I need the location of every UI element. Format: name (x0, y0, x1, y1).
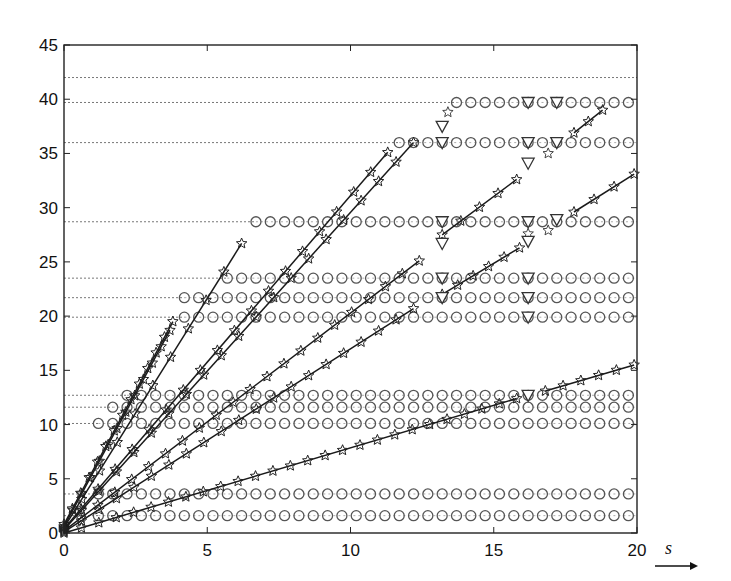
x-axis-label: s (665, 538, 672, 558)
y-tick-label: 45 (39, 36, 58, 55)
arrow-right-icon (655, 562, 698, 570)
y-tick-label: 15 (39, 361, 58, 380)
axis-ticks (64, 45, 637, 533)
y-tick-label: 25 (39, 253, 58, 272)
y-tick-labels: 051015202530354045 (39, 36, 58, 543)
x-tick-label: 10 (341, 541, 360, 560)
y-tick-label: 35 (39, 144, 58, 163)
y-tick-label: 5 (49, 470, 58, 489)
dashed-levels (64, 78, 637, 516)
x-tick-label: 20 (628, 541, 647, 560)
x-tick-label: 5 (203, 541, 212, 560)
y-tick-label: 20 (39, 307, 58, 326)
star-series (59, 105, 640, 538)
triangle-markers (436, 97, 563, 401)
y-tick-label: 0 (49, 524, 58, 543)
circle-markers (93, 97, 633, 520)
plot-frame (64, 45, 637, 533)
chart: 05101520 051015202530354045 s (0, 0, 731, 581)
x-tick-label: 15 (484, 541, 503, 560)
y-tick-label: 10 (39, 416, 58, 435)
y-tick-label: 30 (39, 199, 58, 218)
x-tick-label: 0 (59, 541, 68, 560)
y-tick-label: 40 (39, 90, 58, 109)
x-tick-labels: 05101520 (59, 541, 646, 560)
